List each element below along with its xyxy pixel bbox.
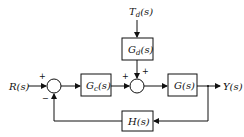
output-label: Y(s) [223, 81, 243, 92]
summing-junction-1 [47, 79, 61, 93]
sum1-plus-sign: + [39, 72, 46, 81]
block-diagram: R(s) + − Gc(s) + + Td(s) Gd(s) G(s) Y(s)… [0, 0, 244, 137]
input-label-r: R(s) [8, 81, 30, 92]
disturbance-label: Td(s) [129, 6, 153, 19]
feedback-return-line [54, 94, 122, 121]
plant-label: G(s) [174, 80, 195, 91]
sum2-top-plus-sign: + [142, 67, 149, 76]
sum1-minus-sign: − [42, 94, 49, 103]
summing-junction-2 [130, 79, 144, 93]
sum2-left-plus-sign: + [122, 72, 129, 81]
feedback-label: H(s) [127, 116, 150, 127]
